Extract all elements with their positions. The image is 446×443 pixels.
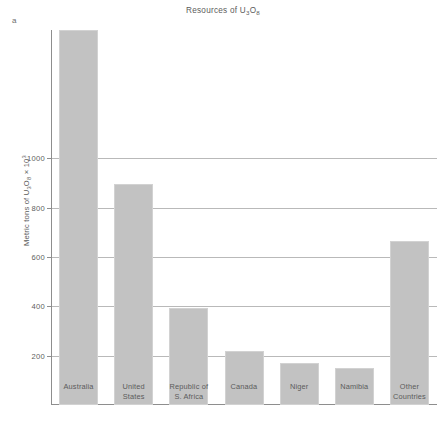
y-axis-label-sub-3: 3: [25, 186, 31, 189]
x-category-label-line: Australia: [51, 382, 106, 392]
y-tick-mark: [47, 158, 52, 159]
y-axis-label: Metric tons of U3O8 × 103: [22, 126, 31, 276]
x-category-label-line: Niger: [272, 382, 327, 392]
gridline-600: [51, 257, 437, 258]
x-category-label-line: Countries: [382, 392, 437, 402]
x-category-label-canada: Canada: [216, 382, 271, 392]
y-axis-label-sub-8: 8: [25, 177, 31, 180]
x-category-label-niger: Niger: [272, 382, 327, 392]
gridline-400: [51, 306, 437, 307]
x-category-label-other-countries: OtherCountries: [382, 382, 437, 401]
y-axis-label-o: O: [22, 180, 31, 186]
plot-area: 2004006008001000: [51, 30, 437, 405]
x-category-label-line: Republic of: [161, 382, 216, 392]
chart-title: Resources of U3O8: [0, 6, 446, 15]
gridline-1000: [51, 158, 437, 159]
y-tick-label: 200: [31, 351, 45, 360]
y-tick-label: 400: [31, 302, 45, 311]
x-category-label-line: States: [106, 392, 161, 402]
bar-canada: [225, 351, 264, 405]
chart-title-sub-8: 8: [256, 9, 260, 16]
y-tick-label: 1000: [27, 154, 45, 163]
x-category-label-line: Namibia: [327, 382, 382, 392]
chart-title-sub-3: 3: [246, 9, 250, 16]
y-tick-mark: [47, 257, 52, 258]
y-tick-mark: [47, 306, 52, 307]
y-axis-line: [51, 30, 52, 405]
figure-root: a Resources of U3O8 Metric tons of U3O8 …: [0, 0, 446, 443]
bar-other-countries: [390, 241, 429, 405]
x-category-label-republic-of-s-africa: Republic ofS. Africa: [161, 382, 216, 401]
x-category-label-australia: Australia: [51, 382, 106, 392]
x-category-label-namibia: Namibia: [327, 382, 382, 392]
y-tick-mark: [47, 208, 52, 209]
x-category-label-line: United: [106, 382, 161, 392]
y-tick-label: 800: [31, 203, 45, 212]
x-category-label-line: S. Africa: [161, 392, 216, 402]
y-axis-label-exp: 3: [21, 155, 27, 158]
y-axis-label-pre: Metric tons of U: [22, 190, 31, 246]
bar-australia: [59, 30, 98, 405]
bar-united-states: [114, 184, 153, 405]
gridline-800: [51, 208, 437, 209]
chart-title-text: Resources of U: [186, 6, 246, 15]
x-category-label-line: Other: [382, 382, 437, 392]
y-tick-label: 600: [31, 252, 45, 261]
figure-letter: a: [12, 16, 17, 25]
x-category-label-line: Canada: [216, 382, 271, 392]
y-tick-mark: [47, 356, 52, 357]
x-category-label-united-states: UnitedStates: [106, 382, 161, 401]
